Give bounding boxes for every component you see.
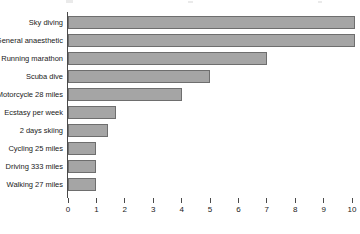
x-tick-mark bbox=[181, 198, 182, 203]
x-tick-label: 9 bbox=[314, 205, 334, 214]
bar bbox=[68, 106, 116, 119]
category-label: 2 days skiing bbox=[0, 122, 63, 139]
x-tick-label: 10 bbox=[342, 205, 360, 214]
bar-row: Walking 27 miles bbox=[68, 176, 356, 194]
bar-row: Sky diving bbox=[68, 14, 356, 32]
x-tick: 9 bbox=[314, 198, 334, 214]
x-tick-label: 6 bbox=[228, 205, 248, 214]
x-tick-mark bbox=[153, 198, 154, 203]
x-tick-mark bbox=[295, 198, 296, 203]
category-label: General anaesthetic bbox=[0, 32, 63, 49]
bar-rows: Sky divingGeneral anaestheticRunning mar… bbox=[68, 14, 356, 194]
bar-row: Ecstasy per week bbox=[68, 104, 356, 122]
x-tick: 6 bbox=[228, 198, 248, 214]
x-tick: 4 bbox=[172, 198, 192, 214]
bar bbox=[68, 178, 96, 191]
scan-artifact bbox=[318, 1, 322, 3]
x-tick-mark bbox=[68, 198, 69, 203]
category-label: Motorcycle 28 miles bbox=[0, 86, 63, 103]
x-tick: 1 bbox=[86, 198, 106, 214]
bar bbox=[68, 34, 355, 47]
bar bbox=[68, 16, 355, 29]
bar bbox=[68, 142, 96, 155]
x-tick-mark bbox=[352, 198, 353, 203]
x-tick-label: 5 bbox=[200, 205, 220, 214]
x-tick-label: 0 bbox=[58, 205, 78, 214]
x-tick-label: 2 bbox=[115, 205, 135, 214]
category-label: Driving 333 miles bbox=[0, 158, 63, 175]
bar-row: 2 days skiing bbox=[68, 122, 356, 140]
bar bbox=[68, 124, 108, 137]
scan-artifact bbox=[66, 0, 73, 3]
x-tick-mark bbox=[96, 198, 97, 203]
x-tick-mark bbox=[210, 198, 211, 203]
x-tick-mark bbox=[124, 198, 125, 203]
bar-row: Scuba dive bbox=[68, 68, 356, 86]
category-label: Scuba dive bbox=[0, 68, 63, 85]
x-tick-mark bbox=[238, 198, 239, 203]
bar-row: Cycling 25 miles bbox=[68, 140, 356, 158]
x-tick: 2 bbox=[115, 198, 135, 214]
bar bbox=[68, 52, 267, 65]
bar-row: Motorcycle 28 miles bbox=[68, 86, 356, 104]
category-label: Cycling 25 miles bbox=[0, 140, 63, 157]
x-tick-label: 8 bbox=[285, 205, 305, 214]
bar-row: Driving 333 miles bbox=[68, 158, 356, 176]
x-tick-mark bbox=[323, 198, 324, 203]
x-tick: 8 bbox=[285, 198, 305, 214]
x-tick: 3 bbox=[143, 198, 163, 214]
bar-row: General anaesthetic bbox=[68, 32, 356, 50]
x-tick: 10 bbox=[342, 198, 360, 214]
x-axis-ticks: 012345678910 bbox=[68, 198, 356, 228]
bar bbox=[68, 160, 96, 173]
x-tick-label: 3 bbox=[143, 205, 163, 214]
category-label: Ecstasy per week bbox=[0, 104, 63, 121]
x-tick-mark bbox=[266, 198, 267, 203]
bar bbox=[68, 70, 210, 83]
x-tick-label: 1 bbox=[86, 205, 106, 214]
bar-chart: Sky divingGeneral anaestheticRunning mar… bbox=[0, 0, 360, 234]
x-tick: 7 bbox=[257, 198, 277, 214]
bar-row: Running marathon bbox=[68, 50, 356, 68]
x-tick: 0 bbox=[58, 198, 78, 214]
x-tick: 5 bbox=[200, 198, 220, 214]
category-label: Running marathon bbox=[0, 50, 63, 67]
scan-artifact bbox=[188, 1, 193, 3]
category-label: Sky diving bbox=[0, 14, 63, 31]
bar bbox=[68, 88, 182, 101]
category-label: Walking 27 miles bbox=[0, 176, 63, 193]
x-tick-label: 4 bbox=[172, 205, 192, 214]
x-tick-label: 7 bbox=[257, 205, 277, 214]
plot-area: Sky divingGeneral anaestheticRunning mar… bbox=[68, 14, 356, 194]
